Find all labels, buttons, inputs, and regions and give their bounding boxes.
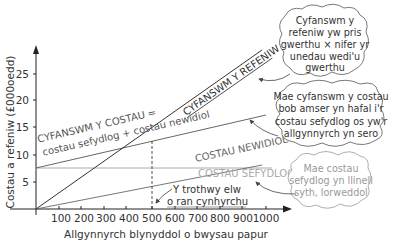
total-cost-bubble-line3: costau sefydlog os yw'r xyxy=(275,116,388,127)
total-cost-bubble-line1: Mae cyfanswm y costau xyxy=(273,91,388,102)
breakeven-label-line1: Y trothwy elw xyxy=(172,184,241,195)
x-tick-200: 200 xyxy=(74,212,94,224)
fixed-cost-bubble-line1: Mae costau xyxy=(304,163,359,174)
x-tick-1000: 1000 xyxy=(253,212,280,224)
x-tick-400: 400 xyxy=(119,212,139,224)
y-tick-15: 15 xyxy=(16,121,29,133)
y-axis-arrow-icon xyxy=(33,45,39,54)
x-axis-title: Allgynnyrch blynyddol o bwysau papur xyxy=(64,228,268,240)
breakeven-chart: 5 10 15 20 25 100 200 300 400 500 600 70… xyxy=(0,0,393,242)
total-cost-bubble-line2: bob amser yn hafal i'r xyxy=(278,103,383,114)
x-tick-500: 500 xyxy=(142,212,162,224)
total-cost-bubble-line4: allgynnyrch yn sero xyxy=(284,128,378,139)
x-tick-300: 300 xyxy=(96,212,116,224)
x-tick-600: 600 xyxy=(165,212,185,224)
fixed-cost-bubble-line3: syth, lorweddol xyxy=(294,187,368,198)
revenue-bubble-line4: unedau wedi'u xyxy=(290,51,360,62)
revenue-bubble-line1: Cyfanswm y xyxy=(296,15,355,26)
x-tick-800: 800 xyxy=(210,212,230,224)
y-axis-title: Costau a refeniw (£000oedd) xyxy=(4,56,16,209)
variable-cost-label-group: COSTAU NEWIDIOL xyxy=(194,133,289,164)
y-tick-25: 25 xyxy=(16,68,29,80)
variable-cost-label: COSTAU NEWIDIOL xyxy=(194,133,289,164)
x-axis-arrow-icon xyxy=(283,206,292,213)
x-tick-900: 900 xyxy=(233,212,253,224)
fixed-cost-bubble-line2: sefydlog yn llinell xyxy=(289,175,373,186)
fixed-cost-label: COSTAU SEFYDLOG xyxy=(198,168,295,179)
revenue-bubble-line3: gwerthu × nifer yr xyxy=(281,39,370,50)
revenue-bubble-line5: gwerthu xyxy=(305,62,345,73)
x-tick-100: 100 xyxy=(51,212,71,224)
y-tick-5: 5 xyxy=(22,176,29,188)
y-tick-20: 20 xyxy=(16,94,29,106)
revenue-bubble-arrow-icon xyxy=(259,74,290,81)
revenue-bubble-line2: refeniw yw pris xyxy=(289,27,362,38)
x-tick-700: 700 xyxy=(188,212,208,224)
breakeven-label-line2: o ran cynhyrchu xyxy=(167,196,248,207)
y-tick-10: 10 xyxy=(16,149,29,161)
